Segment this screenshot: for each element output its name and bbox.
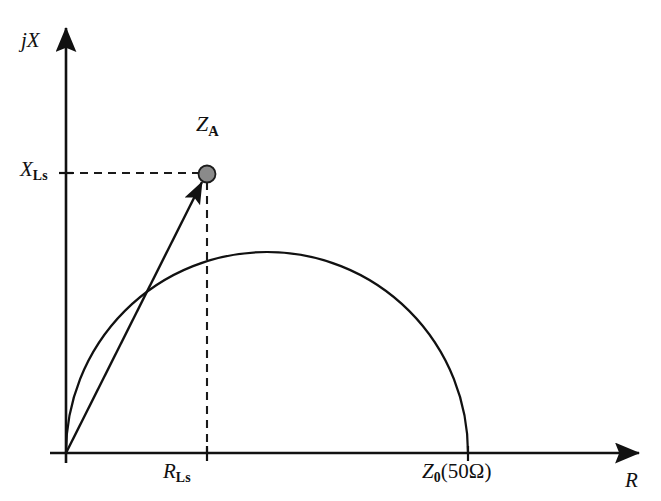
reactance-label-main: X	[20, 157, 33, 181]
diagram-canvas	[0, 0, 661, 501]
impedance-vector-arrow	[66, 182, 202, 453]
char-impedance-main: Z	[422, 459, 434, 483]
point-label-za-main: Z	[196, 111, 208, 136]
resistance-axis-label: RLs	[163, 461, 191, 485]
impedance-plane-figure: jX ZA XLs RLs Z0(50Ω) R	[0, 0, 661, 501]
char-impedance-label: Z0(50Ω)	[422, 461, 491, 485]
resistance-label-main: R	[163, 459, 176, 483]
char-impedance-sub: 0	[434, 470, 441, 485]
reactance-label-sub: Ls	[33, 168, 48, 183]
resistance-label-sub: Ls	[176, 470, 191, 485]
char-impedance-value: (50Ω)	[441, 459, 492, 483]
point-label-za-sub: A	[208, 123, 219, 139]
y-axis-label: jX	[21, 30, 40, 51]
point-label-za: ZA	[196, 113, 219, 138]
y-axis-label-text: jX	[21, 28, 40, 52]
point-marker-za	[199, 166, 216, 183]
semicircle-curve	[66, 252, 468, 453]
reactance-axis-label: XLs	[20, 159, 48, 183]
x-axis-label: R	[625, 470, 638, 491]
x-axis-label-text: R	[625, 468, 638, 492]
